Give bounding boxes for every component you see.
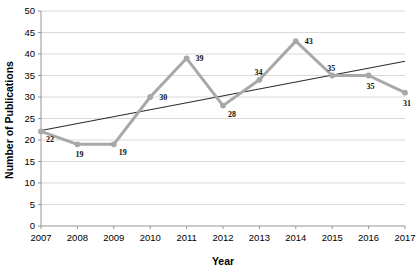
data-point-label: 34	[254, 68, 262, 77]
x-tick-label: 2012	[212, 232, 233, 243]
y-tick-label: 40	[24, 48, 35, 59]
y-tick-label: 15	[24, 156, 35, 167]
y-tick-label: 20	[24, 134, 35, 145]
data-point-label: 28	[228, 110, 236, 119]
chart-svg: 05101520253035404550 2219193039283443353…	[0, 0, 419, 272]
y-axis-title: Number of Publications	[3, 61, 15, 179]
x-tick-label: 2010	[140, 232, 161, 243]
data-point-label: 35	[327, 64, 335, 73]
x-tick-label: 2017	[394, 232, 415, 243]
y-tick-label: 50	[24, 5, 35, 16]
data-marker	[293, 38, 299, 44]
data-point-label: 43	[305, 37, 313, 46]
data-point-label: 39	[196, 54, 204, 63]
data-marker	[111, 141, 117, 147]
y-tick-label: 10	[24, 177, 35, 188]
data-point-label: 19	[75, 150, 83, 159]
data-marker	[366, 73, 372, 79]
y-tick-label: 5	[30, 199, 35, 210]
y-tick-label: 25	[24, 113, 35, 124]
x-tick-label: 2008	[67, 232, 88, 243]
y-tick-label: 30	[24, 91, 35, 102]
data-point-label: 31	[403, 99, 411, 108]
x-tick-label: 2013	[249, 232, 270, 243]
y-tick-label: 0	[30, 220, 35, 231]
data-marker	[402, 90, 408, 96]
y-tick-label: 35	[24, 70, 35, 81]
x-tick-label: 2009	[103, 232, 124, 243]
data-point-label: 30	[159, 93, 167, 102]
x-tick-label: 2016	[358, 232, 379, 243]
data-marker	[257, 77, 263, 83]
chart-background	[0, 0, 419, 272]
x-tick-label: 2007	[30, 232, 51, 243]
data-marker	[184, 55, 190, 61]
x-tick-label: 2014	[285, 232, 306, 243]
x-tick-label: 2015	[322, 232, 343, 243]
data-marker	[220, 103, 226, 109]
y-tick-label: 45	[24, 27, 35, 38]
data-marker	[147, 94, 153, 100]
publications-line-chart: 05101520253035404550 2219193039283443353…	[0, 0, 419, 272]
data-point-label: 19	[119, 148, 127, 157]
x-tick-label: 2011	[176, 232, 196, 243]
data-marker	[75, 141, 81, 147]
data-point-label: 35	[367, 82, 375, 91]
data-marker	[38, 129, 44, 135]
data-marker	[329, 73, 335, 79]
data-point-label: 22	[46, 135, 54, 144]
x-axis-title: Year	[212, 255, 234, 267]
